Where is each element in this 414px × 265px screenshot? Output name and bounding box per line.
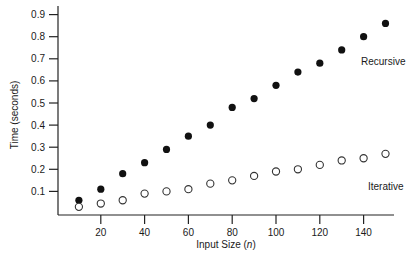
- data-point: [185, 133, 192, 140]
- data-point: [294, 166, 301, 173]
- data-point: [119, 197, 126, 204]
- series-iterative: [75, 150, 389, 210]
- data-point: [229, 104, 236, 111]
- x-tick-label: 40: [139, 227, 151, 238]
- data-point: [272, 168, 279, 175]
- y-axis-title: Time (seconds): [9, 81, 20, 150]
- data-point: [316, 60, 323, 67]
- data-point: [97, 186, 104, 193]
- y-tick-label: 0.9: [31, 9, 45, 20]
- data-point: [316, 161, 323, 168]
- y-axis: 0.10.20.30.40.50.60.70.80.9: [31, 6, 58, 215]
- y-tick-label: 0.4: [31, 120, 45, 131]
- data-point: [97, 200, 104, 207]
- x-axis-title: Input Size (n): [196, 239, 256, 250]
- data-point: [338, 46, 345, 53]
- x-tick-label: 80: [227, 227, 239, 238]
- y-tick-label: 0.6: [31, 75, 45, 86]
- x-tick-label: 20: [95, 227, 107, 238]
- data-point: [338, 157, 345, 164]
- data-point: [229, 177, 236, 184]
- data-point: [251, 172, 258, 179]
- data-point: [141, 159, 148, 166]
- data-point: [207, 122, 214, 129]
- series-label-recursive: Recursive: [361, 56, 406, 67]
- data-point: [382, 20, 389, 27]
- data-point: [360, 155, 367, 162]
- data-point: [360, 33, 367, 40]
- data-points: [75, 20, 389, 211]
- x-tick-label: 100: [268, 227, 285, 238]
- data-point: [251, 95, 258, 102]
- data-point: [163, 188, 170, 195]
- data-point: [382, 150, 389, 157]
- y-tick-label: 0.2: [31, 164, 45, 175]
- y-tick-label: 0.5: [31, 98, 45, 109]
- x-axis: 20406080100120140: [58, 215, 394, 238]
- data-point: [119, 170, 126, 177]
- data-point: [207, 180, 214, 187]
- x-tick-label: 120: [311, 227, 328, 238]
- data-point: [185, 186, 192, 193]
- data-point: [141, 190, 148, 197]
- scatter-chart: 0.10.20.30.40.50.60.70.80.9 204060801001…: [0, 0, 414, 265]
- y-tick-label: 0.8: [31, 31, 45, 42]
- x-axis-title-suffix: ): [252, 239, 255, 250]
- y-tick-label: 0.3: [31, 142, 45, 153]
- y-tick-label: 0.1: [31, 186, 45, 197]
- data-point: [163, 146, 170, 153]
- data-point: [294, 68, 301, 75]
- x-tick-label: 140: [355, 227, 372, 238]
- x-tick-label: 60: [183, 227, 195, 238]
- data-point: [272, 82, 279, 89]
- x-axis-title-prefix: Input Size (: [196, 239, 247, 250]
- y-tick-label: 0.7: [31, 53, 45, 64]
- data-point: [75, 203, 82, 210]
- series-label-iterative: Iterative: [368, 181, 404, 192]
